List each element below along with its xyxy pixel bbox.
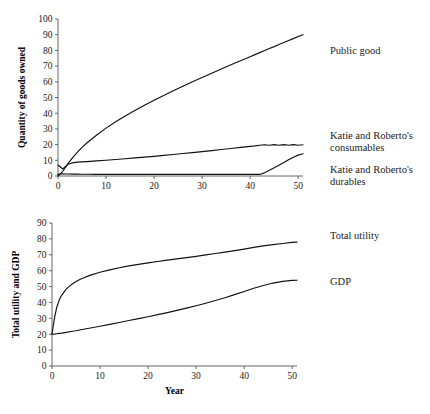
- y-tick-label: 30: [43, 124, 53, 134]
- series-line: [58, 154, 303, 175]
- x-tick-label: 50: [287, 371, 297, 381]
- y-tick-label: 50: [43, 93, 53, 103]
- y-tick-label: 20: [37, 330, 47, 340]
- y-tick-label: 70: [43, 61, 53, 71]
- y-tick-label: 90: [37, 218, 47, 228]
- y-tick-label: 80: [37, 234, 47, 244]
- figure-container: 010203040506070809010001020304050Quantit…: [0, 0, 430, 414]
- x-tick-label: 30: [197, 181, 207, 191]
- series-label-public-good: Public good: [330, 45, 380, 57]
- series-line: [52, 280, 297, 334]
- chart-panel-bottom: 010203040506070809001020304050Total util…: [0, 205, 430, 414]
- y-tick-label: 10: [37, 345, 47, 355]
- x-tick-label: 20: [143, 371, 153, 381]
- x-tick-label: 30: [191, 371, 201, 381]
- y-tick-label: 50: [37, 282, 47, 292]
- series-label-gdp: GDP: [330, 276, 351, 288]
- series-label-durables: Katie and Roberto's durables: [330, 164, 413, 189]
- series-line: [58, 145, 303, 169]
- x-tick-label: 10: [101, 181, 111, 191]
- x-tick-label: 0: [56, 181, 61, 191]
- y-tick-label: 40: [37, 298, 47, 308]
- y-tick-label: 70: [37, 250, 47, 260]
- y-axis-title: Quantity of goods owned: [17, 46, 27, 148]
- y-tick-label: 80: [43, 46, 53, 56]
- series-label-consumables: Katie and Roberto's consumables: [330, 130, 413, 155]
- series-line: [58, 35, 303, 176]
- x-tick-label: 0: [50, 371, 55, 381]
- y-tick-label: 40: [43, 109, 53, 119]
- y-tick-label: 10: [43, 156, 53, 166]
- chart-panel-top: 010203040506070809010001020304050Quantit…: [0, 0, 430, 205]
- series-label-total-utility: Total utility: [330, 230, 379, 242]
- y-tick-label: 60: [37, 266, 47, 276]
- y-axis-title: Total utility and GDP: [11, 251, 21, 339]
- y-tick-label: 100: [38, 14, 53, 24]
- x-tick-label: 40: [245, 181, 255, 191]
- x-tick-label: 10: [95, 371, 105, 381]
- series-line: [52, 242, 297, 334]
- x-tick-label: 20: [149, 181, 159, 191]
- y-tick-label: 0: [42, 361, 47, 371]
- y-tick-label: 90: [43, 30, 53, 40]
- y-tick-label: 0: [48, 171, 53, 181]
- x-axis-title: Year: [165, 386, 185, 396]
- y-tick-label: 30: [37, 314, 47, 324]
- x-tick-label: 50: [293, 181, 303, 191]
- x-tick-label: 40: [239, 371, 249, 381]
- y-tick-label: 20: [43, 140, 53, 150]
- y-tick-label: 60: [43, 77, 53, 87]
